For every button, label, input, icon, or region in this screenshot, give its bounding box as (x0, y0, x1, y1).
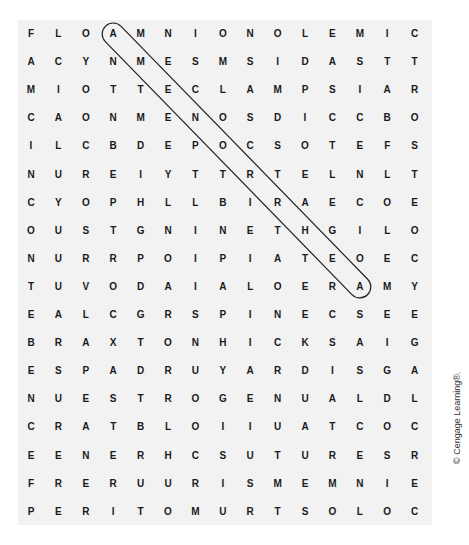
grid-cell[interactable]: E (322, 193, 342, 213)
grid-cell[interactable]: O (295, 136, 315, 156)
grid-cell[interactable]: E (350, 136, 370, 156)
grid-cell[interactable]: V (76, 277, 96, 297)
grid-cell[interactable]: M (213, 52, 233, 72)
grid-cell[interactable]: B (131, 417, 151, 437)
grid-cell[interactable]: Y (48, 193, 68, 213)
grid-cell[interactable]: R (268, 193, 288, 213)
grid-cell[interactable]: U (295, 446, 315, 466)
grid-cell[interactable]: O (76, 80, 96, 100)
grid-cell[interactable]: U (240, 446, 260, 466)
grid-cell[interactable]: T (213, 165, 233, 185)
grid-cell[interactable]: L (377, 165, 397, 185)
grid-cell[interactable]: P (76, 361, 96, 381)
grid-cell[interactable]: M (131, 52, 151, 72)
grid-cell[interactable]: C (405, 24, 425, 44)
grid-cell[interactable]: O (405, 221, 425, 241)
grid-cell[interactable]: S (322, 333, 342, 353)
grid-cell[interactable]: I (213, 417, 233, 437)
grid-cell[interactable]: R (158, 389, 178, 409)
grid-cell[interactable]: S (240, 474, 260, 494)
grid-cell[interactable]: B (21, 333, 41, 353)
grid-cell[interactable]: A (48, 108, 68, 128)
grid-cell[interactable]: T (103, 80, 123, 100)
grid-cell[interactable]: R (103, 249, 123, 269)
grid-cell[interactable]: I (240, 333, 260, 353)
grid-cell[interactable]: A (158, 277, 178, 297)
grid-cell[interactable]: E (295, 277, 315, 297)
grid-cell[interactable]: S (350, 305, 370, 325)
grid-cell[interactable]: E (240, 221, 260, 241)
grid-cell[interactable]: C (21, 193, 41, 213)
grid-cell[interactable]: C (405, 249, 425, 269)
grid-cell[interactable]: A (240, 361, 260, 381)
grid-cell[interactable]: I (185, 221, 205, 241)
grid-cell[interactable]: T (268, 165, 288, 185)
grid-cell[interactable]: R (103, 474, 123, 494)
grid-cell[interactable]: U (48, 389, 68, 409)
grid-cell[interactable]: U (213, 502, 233, 522)
grid-cell[interactable]: O (158, 333, 178, 353)
grid-cell[interactable]: I (48, 80, 68, 100)
grid-cell[interactable]: A (295, 417, 315, 437)
grid-cell[interactable]: R (185, 474, 205, 494)
grid-cell[interactable]: C (240, 136, 260, 156)
grid-cell[interactable]: Y (76, 52, 96, 72)
grid-cell[interactable]: D (268, 108, 288, 128)
grid-cell[interactable]: A (103, 361, 123, 381)
grid-cell[interactable]: C (21, 417, 41, 437)
grid-cell[interactable]: O (377, 502, 397, 522)
grid-cell[interactable]: S (268, 136, 288, 156)
grid-cell[interactable]: M (21, 80, 41, 100)
grid-cell[interactable]: R (131, 446, 151, 466)
grid-cell[interactable]: R (76, 165, 96, 185)
grid-cell[interactable]: I (377, 474, 397, 494)
grid-cell[interactable]: O (158, 502, 178, 522)
grid-cell[interactable]: E (76, 474, 96, 494)
grid-cell[interactable]: S (185, 52, 205, 72)
grid-cell[interactable]: M (350, 24, 370, 44)
grid-cell[interactable]: Y (158, 165, 178, 185)
grid-cell[interactable]: U (131, 474, 151, 494)
grid-cell[interactable]: A (268, 249, 288, 269)
grid-cell[interactable]: A (76, 333, 96, 353)
grid-cell[interactable]: A (21, 52, 41, 72)
grid-cell[interactable]: L (48, 24, 68, 44)
grid-cell[interactable]: O (103, 277, 123, 297)
grid-cell[interactable]: I (131, 165, 151, 185)
grid-cell[interactable]: O (76, 108, 96, 128)
grid-cell[interactable]: I (103, 502, 123, 522)
grid-cell[interactable]: O (213, 108, 233, 128)
grid-cell[interactable]: G (322, 221, 342, 241)
grid-cell[interactable]: D (131, 277, 151, 297)
grid-cell[interactable]: M (268, 80, 288, 100)
grid-cell[interactable]: N (103, 52, 123, 72)
grid-cell[interactable]: S (350, 361, 370, 381)
grid-cell[interactable]: T (131, 80, 151, 100)
grid-cell[interactable]: E (103, 446, 123, 466)
grid-cell[interactable]: Y (213, 361, 233, 381)
grid-cell[interactable]: E (295, 165, 315, 185)
grid-cell[interactable]: C (322, 305, 342, 325)
grid-cell[interactable]: E (322, 249, 342, 269)
grid-cell[interactable]: D (377, 389, 397, 409)
grid-cell[interactable]: B (213, 193, 233, 213)
grid-cell[interactable]: R (405, 80, 425, 100)
grid-cell[interactable]: O (377, 417, 397, 437)
grid-cell[interactable]: B (103, 136, 123, 156)
grid-cell[interactable]: A (103, 24, 123, 44)
grid-cell[interactable]: G (377, 361, 397, 381)
grid-cell[interactable]: L (405, 389, 425, 409)
grid-cell[interactable]: N (350, 474, 370, 494)
grid-cell[interactable]: Y (405, 277, 425, 297)
grid-cell[interactable]: E (405, 193, 425, 213)
grid-cell[interactable]: I (240, 249, 260, 269)
grid-cell[interactable]: O (76, 24, 96, 44)
grid-cell[interactable]: M (131, 108, 151, 128)
grid-cell[interactable]: I (185, 249, 205, 269)
grid-cell[interactable]: L (377, 221, 397, 241)
grid-cell[interactable]: T (103, 417, 123, 437)
grid-cell[interactable]: H (158, 446, 178, 466)
grid-cell[interactable]: A (322, 52, 342, 72)
grid-cell[interactable]: G (405, 333, 425, 353)
grid-cell[interactable]: C (350, 108, 370, 128)
